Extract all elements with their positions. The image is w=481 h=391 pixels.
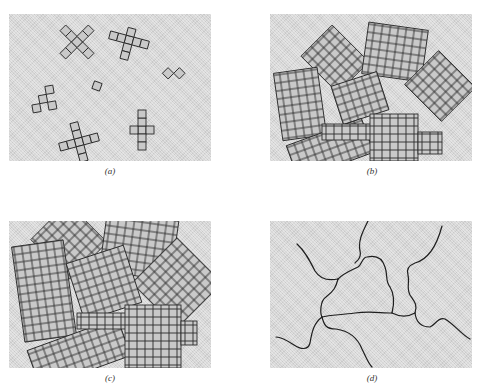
panel-c-impingement bbox=[9, 221, 211, 368]
caption-b: (b) bbox=[352, 166, 392, 176]
grain-boundary-drawing bbox=[270, 221, 472, 368]
growth-drawing bbox=[270, 14, 472, 161]
caption-c: (c) bbox=[90, 373, 130, 383]
impingement-drawing bbox=[9, 221, 211, 368]
panel-b-growth bbox=[270, 14, 472, 161]
panel-a-nuclei bbox=[9, 14, 211, 161]
nuclei-drawing bbox=[9, 14, 211, 161]
caption-d: (d) bbox=[352, 373, 392, 383]
panel-d-grain-boundaries bbox=[270, 221, 472, 368]
caption-a: (a) bbox=[90, 166, 130, 176]
